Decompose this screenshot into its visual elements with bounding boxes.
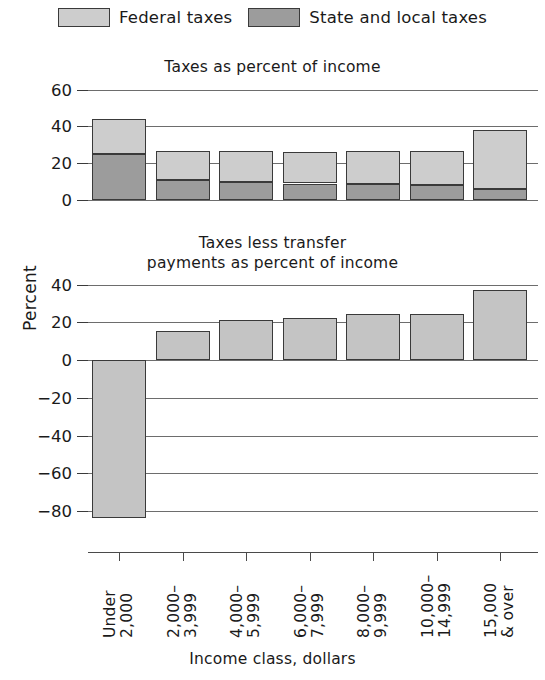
lower-bar xyxy=(473,290,527,361)
x-axis-label: Under2,000 xyxy=(102,590,136,638)
upper-bar-state-local xyxy=(219,182,273,200)
lower-ytick-label-neg20: −20 xyxy=(14,389,72,408)
legend-swatch-icon-federal xyxy=(58,8,110,27)
x-axis-label: 4,000–5,999 xyxy=(229,585,263,638)
x-axis-label-line2: 3,999 xyxy=(183,585,200,638)
lower-ytick-20 xyxy=(77,322,88,323)
x-axis-title: Income class, dollars xyxy=(0,650,545,668)
lower-gridline-neg20 xyxy=(88,398,538,399)
chart-page: Federal taxes State and local taxes Taxe… xyxy=(0,0,545,680)
upper-bar-state-local xyxy=(346,184,400,200)
x-axis-label-line1: Under xyxy=(102,590,119,638)
x-axis-label-line2: 7,999 xyxy=(310,585,327,638)
x-axis-tick xyxy=(183,552,184,561)
lower-chart-title-line1: Taxes less transfer xyxy=(0,234,545,253)
upper-ytick-label-40: 40 xyxy=(24,117,72,136)
x-axis-label-line1: 15,000 xyxy=(483,583,500,638)
upper-ytick-label-0: 0 xyxy=(24,191,72,210)
lower-ytick-neg60 xyxy=(77,473,88,474)
y-axis-title: Percent xyxy=(20,246,40,350)
upper-ytick-40 xyxy=(77,126,88,127)
lower-bar xyxy=(219,320,273,360)
upper-gridline-60 xyxy=(88,90,538,91)
legend-item-state: State and local taxes xyxy=(248,8,487,27)
lower-bar xyxy=(346,314,400,360)
upper-ytick-label-20: 20 xyxy=(24,154,72,173)
lower-ytick-0 xyxy=(77,360,88,361)
upper-bar-federal xyxy=(219,151,273,181)
upper-bar-state-local xyxy=(473,189,527,200)
x-axis-label: 10,000–14,999 xyxy=(420,575,454,638)
upper-gridline-0 xyxy=(88,200,538,201)
x-axis-label-line1: 6,000– xyxy=(293,585,310,638)
x-axis-tick xyxy=(246,552,247,561)
upper-ytick-0 xyxy=(77,200,88,201)
lower-gridline-40 xyxy=(88,285,538,286)
upper-gridline-40 xyxy=(88,126,538,127)
x-axis-tick xyxy=(500,552,501,561)
lower-gridline-neg40 xyxy=(88,436,538,437)
upper-bar-federal xyxy=(283,152,337,183)
x-axis-label-line2: 9,999 xyxy=(373,585,390,638)
upper-ytick-60 xyxy=(77,90,88,91)
x-axis-tick xyxy=(373,552,374,561)
lower-chart-title-line2: payments as percent of income xyxy=(0,254,545,273)
lower-bar xyxy=(283,318,337,360)
lower-ytick-label-neg40: −40 xyxy=(14,427,72,446)
upper-bar-state-local xyxy=(156,180,210,200)
legend-label-federal: Federal taxes xyxy=(119,8,232,27)
x-axis-label: 15,000& over xyxy=(483,583,517,638)
x-axis-label-line2: 2,000 xyxy=(119,590,136,638)
lower-ytick-neg40 xyxy=(77,436,88,437)
upper-ytick-label-60: 60 xyxy=(24,81,72,100)
x-axis-label-line1: 4,000– xyxy=(229,585,246,638)
upper-bar-federal xyxy=(410,151,464,186)
x-axis-label: 6,000–7,999 xyxy=(293,585,327,638)
upper-bar-federal xyxy=(346,151,400,185)
lower-ytick-neg20 xyxy=(77,398,88,399)
lower-gridline-neg60 xyxy=(88,473,538,474)
legend-label-state: State and local taxes xyxy=(309,8,487,27)
x-axis-tick xyxy=(310,552,311,561)
x-axis-label-line1: 2,000– xyxy=(166,585,183,638)
lower-gridline-neg80 xyxy=(88,511,538,512)
lower-ytick-label-0: 0 xyxy=(14,351,72,370)
x-axis-label-line2: 14,999 xyxy=(437,575,454,638)
x-axis-line xyxy=(88,552,538,553)
legend-swatch-icon-state xyxy=(248,8,300,27)
upper-bar-federal xyxy=(473,130,527,189)
x-axis-label: 8,000–9,999 xyxy=(356,585,390,638)
lower-ytick-40 xyxy=(77,285,88,286)
x-axis-label-line1: 8,000– xyxy=(356,585,373,638)
x-axis-label-line1: 10,000– xyxy=(420,575,437,638)
lower-ytick-label-neg80: −80 xyxy=(14,502,72,521)
x-axis-label-line2: 5,999 xyxy=(246,585,263,638)
upper-ytick-20 xyxy=(77,163,88,164)
x-axis-label-line2: & over xyxy=(500,583,517,638)
lower-bar xyxy=(156,331,210,360)
upper-bar-federal xyxy=(92,119,146,154)
x-axis-tick xyxy=(437,552,438,561)
upper-bar-state-local xyxy=(283,184,337,201)
upper-bar-state-local xyxy=(410,185,464,200)
lower-bar xyxy=(410,314,464,360)
lower-ytick-label-neg60: −60 xyxy=(14,464,72,483)
upper-chart-title: Taxes as percent of income xyxy=(0,58,545,77)
x-axis-tick xyxy=(119,552,120,561)
lower-ytick-neg80 xyxy=(77,511,88,512)
x-axis-label: 2,000–3,999 xyxy=(166,585,200,638)
chart-legend: Federal taxes State and local taxes xyxy=(0,8,545,27)
upper-bar-state-local xyxy=(92,154,146,200)
upper-bar-federal xyxy=(156,151,210,180)
legend-item-federal: Federal taxes xyxy=(58,8,232,27)
lower-bar xyxy=(92,360,146,518)
